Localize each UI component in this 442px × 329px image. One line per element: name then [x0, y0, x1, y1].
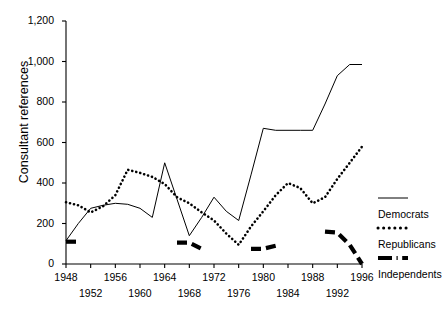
independents-line [251, 246, 276, 249]
x-tick-label: 1988 [293, 271, 333, 283]
y-tick-label: 1,200 [14, 14, 54, 26]
legend-label-independents: Independents [378, 268, 442, 280]
republicans-line [66, 147, 362, 245]
y-tick-label: 0 [14, 257, 54, 269]
axis-lines [66, 21, 362, 264]
x-tick-label: 1984 [268, 287, 308, 299]
x-tick-label: 1952 [71, 287, 111, 299]
y-tick-label: 800 [14, 95, 54, 107]
y-tick-label: 600 [14, 136, 54, 148]
y-tick-label: 1,000 [14, 55, 54, 67]
independents-line [325, 232, 362, 264]
democrats-line [66, 65, 362, 241]
y-tick-label: 400 [14, 176, 54, 188]
legend-label-democrats: Democrats [378, 208, 429, 220]
y-tick-label: 200 [14, 217, 54, 229]
x-tick-label: 1996 [342, 271, 382, 283]
independents-line [177, 243, 202, 249]
x-tick-label: 1964 [145, 271, 185, 283]
series-independents [66, 232, 362, 264]
x-tick-label: 1980 [243, 271, 283, 283]
x-tick-label: 1972 [194, 271, 234, 283]
legend-label-republicans: Republicans [378, 238, 436, 250]
x-tick-label: 1956 [95, 271, 135, 283]
series-democrats [66, 65, 362, 241]
x-tick-label: 1992 [317, 287, 357, 299]
x-tick-label: 1976 [219, 287, 259, 299]
x-tick-marks [66, 264, 362, 268]
y-tick-marks [62, 21, 66, 264]
x-tick-label: 1948 [46, 271, 86, 283]
x-tick-label: 1960 [120, 287, 160, 299]
series-republicans [66, 147, 362, 245]
x-tick-label: 1968 [169, 287, 209, 299]
